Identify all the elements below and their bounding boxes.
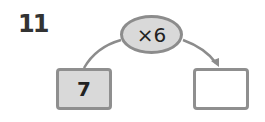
input-box: 7: [56, 68, 112, 110]
operation-oval: ×6: [120, 15, 183, 54]
right-arrow-line: [183, 40, 216, 63]
function-machine-problem: 11 ×6 7: [0, 0, 265, 122]
answer-box[interactable]: [193, 68, 249, 110]
left-connector-line: [84, 40, 121, 68]
